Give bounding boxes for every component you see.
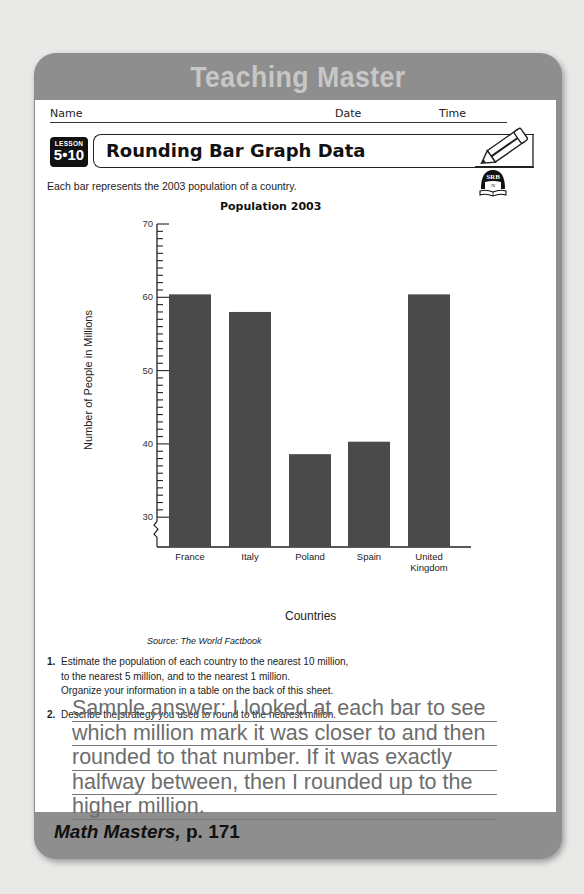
x-tick-label: France xyxy=(160,551,220,562)
bar-spain xyxy=(348,442,390,547)
bar-france xyxy=(169,294,211,547)
x-tick-label: UnitedKingdom xyxy=(399,551,459,573)
question-text: to the nearest 5 million, and to the nea… xyxy=(47,670,348,685)
x-axis-label: Countries xyxy=(285,609,336,623)
y-tick-label: 70 xyxy=(133,218,153,229)
y-tick-label: 40 xyxy=(133,438,153,449)
worksheet-panel: Name Date Time LESSON 5•10 Rounding Bar … xyxy=(35,100,556,812)
chart-source: Source: The World Factbook xyxy=(147,636,262,646)
y-tick-label: 30 xyxy=(133,511,153,522)
question-text: Estimate the population of each country … xyxy=(61,656,348,667)
bar-poland xyxy=(289,454,331,547)
bar-united-kingdom xyxy=(408,294,450,547)
answer-line[interactable]: rounded to that number. If it was exactl… xyxy=(72,746,497,771)
x-tick-label: Spain xyxy=(339,551,399,562)
y-tick-label: 60 xyxy=(133,291,153,302)
footer-reference: Math Masters, p. 171 xyxy=(54,821,240,843)
footer-page: p. 171 xyxy=(181,821,240,842)
y-tick-label: 50 xyxy=(133,365,153,376)
answer-line[interactable]: Sample answer: I looked at each bar to s… xyxy=(72,697,497,722)
answer-line[interactable]: higher million. xyxy=(72,795,497,820)
question-number: 1. xyxy=(47,655,61,670)
answer-line[interactable]: halfway between, then I rounded up to th… xyxy=(72,771,497,796)
question-number: 2. xyxy=(47,708,61,723)
answer-area[interactable]: Sample answer: I looked at each bar to s… xyxy=(72,697,497,820)
x-tick-label: Poland xyxy=(280,551,340,562)
teaching-master-card: Teaching Master Name Date Time LESSON 5•… xyxy=(34,53,562,859)
footer-book-title: Math Masters, xyxy=(54,821,181,842)
banner-title: Teaching Master xyxy=(55,53,541,101)
bar-italy xyxy=(229,312,271,547)
x-tick-label: Italy xyxy=(220,551,280,562)
question-1: 1.Estimate the population of each countr… xyxy=(47,655,348,699)
answer-line[interactable]: which million mark it was closer to and … xyxy=(72,722,497,747)
